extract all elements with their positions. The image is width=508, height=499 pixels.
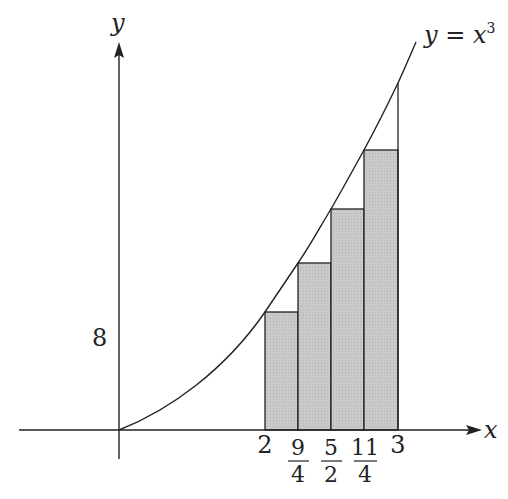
svg-text:11: 11: [351, 435, 379, 460]
rectangle-1: [265, 312, 298, 430]
x-tick-11-4: 11 4: [351, 435, 379, 487]
curve-label: y = x3: [423, 20, 495, 49]
x-tick-5-2: 5 2: [321, 435, 342, 487]
rectangle-2: [298, 263, 331, 430]
x-tick-9-4: 9 4: [288, 435, 309, 487]
rectangle-4: [364, 150, 398, 430]
x-tick-3: 3: [390, 431, 405, 459]
x-axis-label: x: [484, 416, 498, 444]
svg-text:4: 4: [358, 462, 372, 487]
riemann-rectangles: [265, 150, 398, 430]
svg-text:5: 5: [324, 435, 338, 460]
svg-text:4: 4: [291, 462, 305, 487]
rectangle-3: [331, 209, 364, 430]
svg-text:9: 9: [291, 435, 305, 460]
svg-text:2: 2: [324, 462, 338, 487]
y-axis-label: y: [110, 9, 125, 37]
x-tick-2: 2: [257, 431, 272, 459]
riemann-sum-diagram: y x y = x3 8 2 3 9 4 5 2 11 4: [0, 0, 508, 499]
y-tick-8: 8: [92, 324, 107, 352]
